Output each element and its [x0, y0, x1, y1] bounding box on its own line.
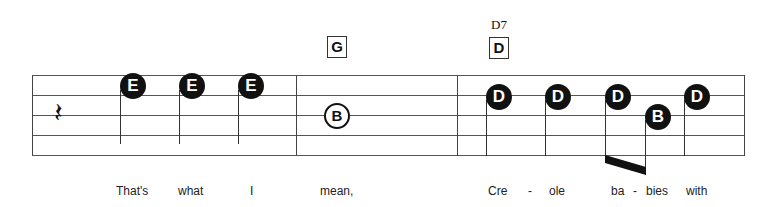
barline-end	[744, 75, 745, 156]
barline-1	[296, 75, 297, 156]
lyric-hyphen: -	[633, 184, 637, 198]
note-d: D	[605, 84, 631, 110]
note-d: D	[684, 84, 710, 110]
note-e: E	[120, 73, 146, 99]
note-stem	[545, 100, 546, 156]
lyric-word: with	[686, 184, 707, 198]
note-d: D	[486, 84, 512, 110]
lyric-word: bies	[646, 184, 668, 198]
staff-line	[32, 115, 745, 116]
eighth-note-beam	[604, 155, 649, 177]
lyric-word: mean,	[320, 184, 353, 198]
lyric-word: ole	[549, 184, 565, 198]
note-b-whole: B	[324, 103, 350, 129]
note-d: D	[545, 84, 571, 110]
lyric-word: I	[250, 184, 253, 198]
lyric-word: That's	[116, 184, 148, 198]
note-stem	[179, 90, 180, 144]
chord-name-d7: D7	[491, 17, 507, 33]
lyric-hyphen: -	[528, 184, 532, 198]
note-e: E	[179, 73, 205, 99]
note-stem	[486, 100, 487, 156]
note-stem	[238, 90, 239, 144]
note-stem	[605, 100, 606, 158]
lyric-word: Cre	[488, 184, 507, 198]
lyric-word: what	[178, 184, 203, 198]
lyric-word: ba	[611, 184, 624, 198]
note-stem	[120, 90, 121, 144]
note-e: E	[238, 73, 264, 99]
staff-line	[32, 135, 745, 136]
note-b: B	[645, 104, 671, 130]
barline-2	[457, 75, 458, 156]
chord-box-d: D	[489, 37, 509, 59]
note-stem	[684, 100, 685, 156]
chord-box-g: G	[327, 36, 347, 58]
barline-start	[32, 75, 33, 156]
quarter-rest-icon: 𝄽	[54, 96, 63, 130]
